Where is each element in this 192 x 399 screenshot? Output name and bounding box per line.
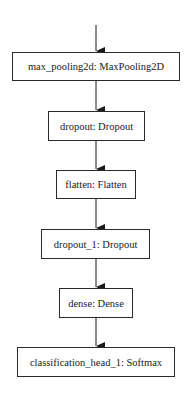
node-dense: dense: Dense [59, 288, 133, 318]
model-graph-diagram: max_pooling2d: MaxPooling2D dropout: Dro… [0, 0, 192, 399]
node-dropout-1: dropout_1: Dropout [41, 229, 150, 259]
node-classification-head-1: classification_head_1: Softmax [17, 347, 175, 377]
node-max-pooling2d: max_pooling2d: MaxPooling2D [12, 52, 180, 81]
node-dropout: dropout: Dropout [48, 111, 145, 141]
node-flatten: flatten: Flatten [56, 170, 136, 199]
